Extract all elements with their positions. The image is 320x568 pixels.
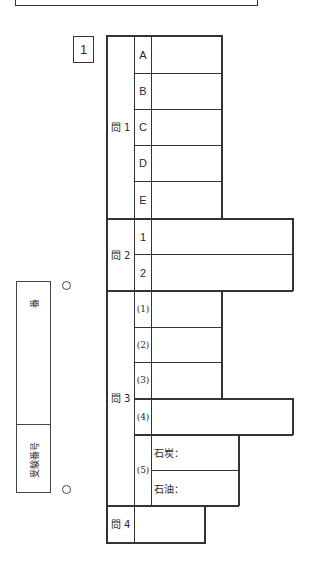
item-label-1A: A	[135, 36, 151, 73]
item-label-2-2: 2	[135, 255, 151, 290]
item-label-1E: E	[135, 181, 151, 218]
answer-cell-1A[interactable]	[152, 36, 221, 73]
student-id-label-cell: 受験番号	[17, 425, 50, 493]
answer-cell-3-2[interactable]	[152, 328, 221, 362]
answer-cell-1E[interactable]	[152, 182, 221, 218]
answer-cell-coal[interactable]	[185, 435, 238, 470]
student-id-label: 受験番号	[27, 441, 40, 477]
item-label-2-1: 1	[135, 219, 151, 254]
student-id-box: 番 受験番号	[16, 281, 51, 493]
header-box	[15, 0, 258, 6]
student-id-suffix: 番	[27, 298, 40, 308]
item-label-3-1: (1)	[135, 291, 151, 327]
item-label-3-5: (5)	[135, 435, 151, 505]
punch-hole-bottom	[62, 485, 71, 494]
answer-cell-1C[interactable]	[152, 110, 221, 145]
item-label-1C: C	[135, 109, 151, 145]
question-label-2: 問 2	[107, 218, 134, 290]
item-label-3-2: (2)	[135, 327, 151, 362]
answer-cell-oil[interactable]	[185, 471, 238, 505]
question-label-1: 問 1	[107, 35, 134, 218]
answer-cell-2-1[interactable]	[152, 219, 292, 254]
answer-cell-4[interactable]	[135, 506, 204, 542]
question-label-4: 問 4	[107, 505, 134, 542]
question-number: 1	[80, 42, 87, 57]
item-label-1D: D	[135, 145, 151, 181]
answer-cell-2-2[interactable]	[152, 255, 292, 290]
subitem-label-oil: 石油：	[154, 471, 184, 505]
student-id-number-field[interactable]: 番	[17, 282, 50, 425]
item-label-1B: B	[135, 73, 151, 109]
question-number-box: 1	[73, 36, 94, 63]
item-label-3-3: (3)	[135, 362, 151, 398]
answer-cell-3-4[interactable]	[152, 399, 292, 434]
answer-cell-1B[interactable]	[152, 74, 221, 109]
answer-cell-3-1[interactable]	[152, 291, 221, 327]
item-label-3-4: (4)	[135, 399, 151, 434]
answer-cell-1D[interactable]	[152, 146, 221, 181]
punch-hole-top	[62, 281, 71, 290]
question-label-3: 問 3	[107, 290, 134, 505]
answer-cell-3-3[interactable]	[152, 363, 221, 398]
subitem-label-coal: 石炭：	[154, 435, 184, 470]
